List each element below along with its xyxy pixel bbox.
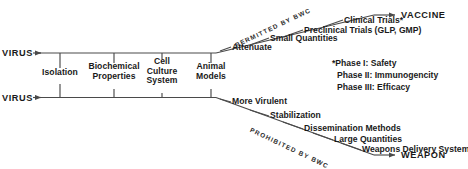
lower-step-label-more-virulent: More Virulent (232, 97, 287, 107)
lower-branch-endpoint-label-weapon: WEAPON (401, 150, 446, 160)
stage-label-cell-culture-system: Cell Culture System (137, 57, 187, 86)
lower-step-tick-large-quantities (313, 133, 333, 140)
pathway-diagram: VIRUS VIRUS Isolation Biochemical Proper… (0, 0, 468, 169)
footnote-line-phase-2: Phase II: Immunogencity (332, 69, 438, 81)
lower-step-tick-stabilization (250, 110, 269, 116)
lower-step-label-dissemination-methods: Dissemination Methods (304, 124, 401, 134)
upper-step-label-clinical-trials: Clinical Trials* (344, 16, 403, 26)
lower-step-label-stabilization: Stabilization (270, 111, 321, 121)
lower-step-label-large-quantities: Large Quantities (334, 135, 402, 145)
footnote-clinical-trial-phases: *Phase I: Safety Phase II: Immunogencity… (332, 57, 438, 94)
footnote-line-phase-3: Phase III: Efficacy (332, 81, 438, 93)
stage-label-isolation-line1: Isolation (35, 68, 85, 78)
source-label-bottom-virus: VIRUS (2, 93, 33, 103)
source-label-top-virus: VIRUS (2, 48, 33, 58)
stage-label-biochemical-properties-line2: Properties (84, 72, 144, 82)
upper-step-label-preclinical-trials: Preclinical Trials (GLP, GMP) (304, 26, 421, 36)
stage-label-biochemical-properties: Biochemical Properties (84, 62, 144, 81)
stage-label-cell-culture-system-line3: System (137, 76, 187, 86)
stage-label-isolation: Isolation (35, 68, 85, 78)
upper-step-label-attenuate: Attenuate (232, 43, 272, 53)
stage-label-animal-models: Animal Models (186, 62, 236, 81)
upper-branch-endpoint-label-vaccine: VACCINE (401, 10, 446, 20)
footnote-line-phase-1: *Phase I: Safety (332, 57, 438, 69)
lower-step-tick-dissemination-methods (283, 122, 303, 129)
stage-label-animal-models-line2: Models (186, 72, 236, 82)
